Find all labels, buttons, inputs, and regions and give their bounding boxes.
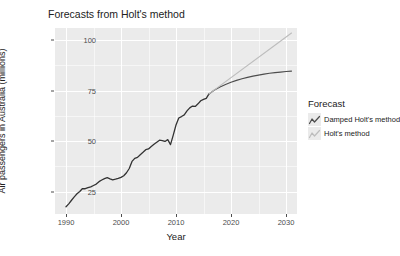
series-layer	[55, 28, 297, 214]
legend-item[interactable]: Holt's method	[308, 127, 400, 140]
legend-item[interactable]: Damped Holt's method	[308, 113, 400, 126]
legend-items: Damped Holt's methodHolt's method	[308, 113, 400, 140]
legend-key-line-icon	[308, 127, 321, 140]
y-axis-tick-label: 100	[83, 36, 96, 45]
legend-item-label: Holt's method	[324, 129, 370, 138]
y-axis-tick-mark	[51, 191, 54, 192]
x-axis-tick-label: 2030	[278, 218, 295, 227]
x-axis-tick-label: 2000	[113, 218, 130, 227]
y-axis-tick-mark	[51, 40, 54, 41]
series-line-3	[209, 33, 292, 94]
y-axis-title: Air passengers in Australia (millions)	[0, 48, 7, 193]
y-axis-tick-label: 75	[88, 86, 96, 95]
x-axis-tick-label: 1990	[58, 218, 75, 227]
series-line-2	[209, 71, 292, 94]
x-axis-tick-mark	[121, 214, 122, 217]
y-axis-tick-mark	[51, 90, 54, 91]
x-axis-tick-label: 2020	[223, 218, 240, 227]
x-axis-tick-label: 2010	[168, 218, 185, 227]
x-axis-tick-mark	[176, 214, 177, 217]
y-axis-tick-label: 25	[88, 187, 96, 196]
legend-key-line-icon	[308, 113, 321, 126]
x-axis-title: Year	[166, 231, 185, 242]
x-axis-tick-mark	[286, 214, 287, 217]
page-title: Forecasts from Holt's method	[48, 8, 185, 20]
y-axis-tick-mark	[51, 141, 54, 142]
x-axis-tick-mark	[231, 214, 232, 217]
y-axis-tick-label: 50	[88, 137, 96, 146]
x-axis-tick-mark	[66, 214, 67, 217]
legend-item-label: Damped Holt's method	[324, 115, 400, 124]
plot-panel	[55, 28, 297, 214]
legend: Forecast Damped Holt's methodHolt's meth…	[308, 98, 400, 141]
legend-title: Forecast	[308, 98, 400, 109]
